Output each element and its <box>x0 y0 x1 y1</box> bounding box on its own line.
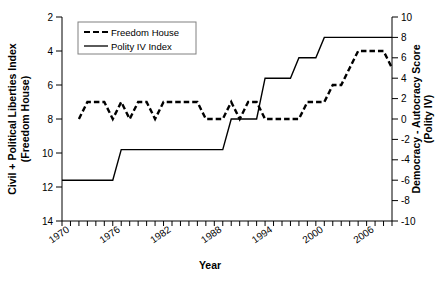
legend-label-polity-iv: Polity IV Index <box>111 41 172 52</box>
right-tick-label: 10 <box>401 12 413 23</box>
x-axis-minor-ticks <box>62 221 392 226</box>
right-tick-label: 2 <box>401 93 407 104</box>
left-axis-ticks: 2468101214 <box>42 12 62 227</box>
series-line-freedom-house <box>79 51 392 119</box>
x-axis-tick-labels: 1970197619821988199420002006 <box>47 223 377 245</box>
right-axis-title-line1: Democracy - Autocracy Score <box>410 44 422 193</box>
left-axis-title-line2: (Freedom House) <box>19 76 31 162</box>
left-tick-label: 4 <box>47 46 53 57</box>
series-group <box>62 37 392 180</box>
x-tick-label: 1988 <box>199 223 224 245</box>
right-axis-title-line2: (Polity IV) <box>422 95 434 143</box>
left-tick-label: 10 <box>42 148 54 159</box>
x-tick-label: 1976 <box>97 223 122 245</box>
left-tick-label: 14 <box>42 216 54 227</box>
chart-canvas: 2468101214 1086420-2-4-6-8-10 1970197619… <box>0 0 444 281</box>
left-tick-label: 2 <box>47 12 53 23</box>
x-tick-label: 2006 <box>351 223 376 245</box>
x-tick-label: 2000 <box>300 223 325 245</box>
right-tick-label: -10 <box>401 216 416 227</box>
left-tick-label: 12 <box>42 182 54 193</box>
chart-figure: 2468101214 1086420-2-4-6-8-10 1970197619… <box>0 0 444 281</box>
legend-label-freedom-house: Freedom House <box>111 27 179 38</box>
x-tick-label: 1970 <box>47 223 72 245</box>
right-tick-label: -4 <box>401 154 410 165</box>
right-tick-label: 4 <box>401 73 407 84</box>
right-tick-label: 0 <box>401 114 407 125</box>
left-tick-label: 6 <box>47 80 53 91</box>
right-tick-label: -8 <box>401 195 410 206</box>
x-tick-label: 1994 <box>250 223 275 245</box>
chart-legend: Freedom House Polity IV Index <box>78 22 196 54</box>
right-tick-label: 8 <box>401 32 407 43</box>
right-tick-label: -6 <box>401 175 410 186</box>
x-axis-title: Year <box>199 259 221 271</box>
left-tick-label: 8 <box>47 114 53 125</box>
right-tick-label: -2 <box>401 134 410 145</box>
right-tick-label: 6 <box>401 52 407 63</box>
left-axis-title-line1: Civil + Political Liberties Index <box>6 43 18 195</box>
x-tick-label: 1982 <box>148 223 173 245</box>
